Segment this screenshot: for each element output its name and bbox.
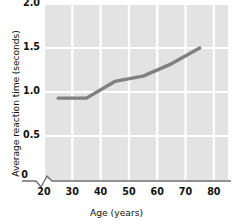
x-tick-label: 60 bbox=[145, 186, 169, 197]
x-tick-label: 40 bbox=[89, 186, 113, 197]
x-tick-label: 80 bbox=[202, 186, 226, 197]
x-tick-label: 20 bbox=[32, 186, 56, 197]
x-tick-label: 30 bbox=[60, 186, 84, 197]
x-axis-title: Age (years) bbox=[0, 207, 233, 218]
x-tick-label: 70 bbox=[174, 186, 198, 197]
y-tick-label: 2.0 bbox=[8, 0, 40, 8]
reaction-time-line-chart: 2.0 1.5 1.0 0.5 0 20304050607080 Average… bbox=[0, 0, 233, 224]
x-tick-label: 50 bbox=[117, 186, 141, 197]
y-axis-title: Average reaction time (seconds) bbox=[10, 14, 21, 194]
